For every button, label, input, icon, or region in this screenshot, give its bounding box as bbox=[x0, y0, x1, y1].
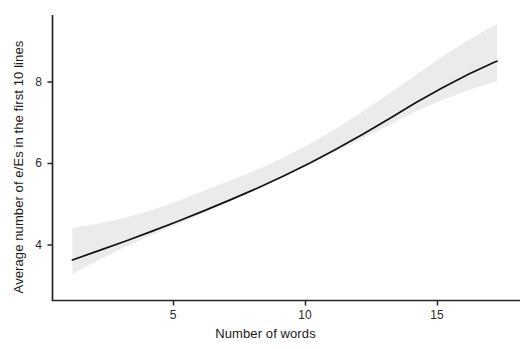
x-tick-label-15: 15 bbox=[430, 308, 443, 322]
chart-figure: 8 6 4 5 10 15 Number of words Average nu… bbox=[0, 0, 531, 349]
x-axis-title: Number of words bbox=[0, 326, 531, 341]
y-axis-title: Average number of e/Es in the first 10 l… bbox=[11, 12, 26, 322]
plot-area bbox=[0, 0, 531, 349]
x-tick-label-5: 5 bbox=[170, 308, 177, 322]
y-axis-title-wrapper: Average number of e/Es in the first 10 l… bbox=[11, 12, 31, 322]
x-tick-label-10: 10 bbox=[298, 308, 311, 322]
